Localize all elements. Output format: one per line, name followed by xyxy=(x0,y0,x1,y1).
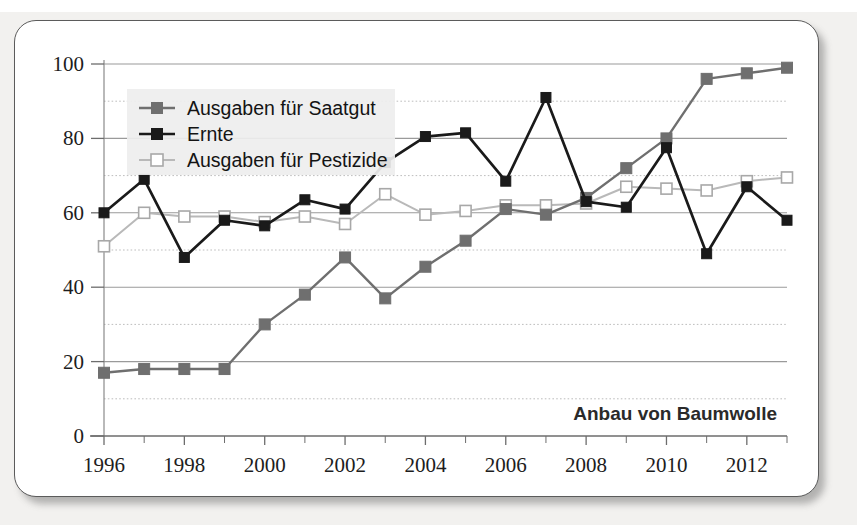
data-point-marker xyxy=(299,289,310,300)
y-axis-tick-label: 100 xyxy=(53,52,85,76)
data-point-marker xyxy=(152,103,163,114)
data-point-marker xyxy=(541,92,551,102)
x-axis-tick-label: 2006 xyxy=(485,453,527,477)
y-axis-tick-label: 0 xyxy=(74,424,85,448)
x-axis-tick-label: 2000 xyxy=(244,453,286,477)
legend-item-label: Ausgaben für Saatgut xyxy=(187,97,376,119)
data-point-marker xyxy=(460,235,471,246)
x-axis-tick-label: 2012 xyxy=(726,453,768,477)
data-point-marker xyxy=(460,205,471,216)
page-root: 0204060801001996199820002002200420062008… xyxy=(0,0,857,525)
data-point-marker xyxy=(621,202,631,212)
figure-card: 0204060801001996199820002002200420062008… xyxy=(14,20,819,497)
data-point-marker xyxy=(742,182,752,192)
data-point-marker xyxy=(179,211,190,222)
data-point-marker xyxy=(99,208,109,218)
x-axis-tick-label: 2010 xyxy=(645,453,687,477)
data-point-marker xyxy=(260,221,270,231)
y-axis-ticks: 020406080100 xyxy=(53,52,105,448)
data-point-marker xyxy=(741,68,752,79)
data-point-marker xyxy=(501,176,511,186)
data-point-marker xyxy=(661,143,671,153)
data-point-marker xyxy=(782,62,793,73)
data-point-marker xyxy=(782,172,793,183)
data-point-marker xyxy=(621,163,632,174)
line-chart: 0204060801001996199820002002200420062008… xyxy=(15,21,820,498)
data-point-marker xyxy=(380,189,391,200)
chart-annotation: Anbau von Baumwolle xyxy=(573,403,777,424)
data-point-marker xyxy=(500,204,511,215)
data-point-marker xyxy=(300,195,310,205)
data-point-marker xyxy=(220,215,230,225)
data-point-marker xyxy=(782,215,792,225)
data-point-marker xyxy=(139,364,150,375)
data-point-marker xyxy=(621,181,632,192)
legend-item-label: Ernte xyxy=(187,123,234,145)
data-point-marker xyxy=(139,207,150,218)
data-point-marker xyxy=(340,204,350,214)
data-point-marker xyxy=(299,211,310,222)
y-axis-tick-label: 40 xyxy=(63,275,84,299)
data-point-marker xyxy=(151,154,163,166)
data-point-marker xyxy=(581,197,591,207)
y-axis-tick-label: 80 xyxy=(63,126,84,150)
data-point-marker xyxy=(702,249,712,259)
data-point-marker xyxy=(380,293,391,304)
data-point-marker xyxy=(420,261,431,272)
x-axis-tick-label: 1998 xyxy=(163,453,205,477)
data-point-marker xyxy=(340,252,351,263)
data-point-marker xyxy=(701,73,712,84)
data-point-marker xyxy=(340,218,351,229)
x-axis-tick-label: 2008 xyxy=(565,453,607,477)
data-point-marker xyxy=(139,174,149,184)
data-point-marker xyxy=(179,364,190,375)
x-axis-tick-label: 2004 xyxy=(404,453,447,477)
data-point-marker xyxy=(99,241,110,252)
y-axis-tick-label: 60 xyxy=(63,201,84,225)
data-point-marker xyxy=(219,364,230,375)
data-point-marker xyxy=(420,209,431,220)
scan-margin-top xyxy=(0,0,857,12)
data-point-marker xyxy=(99,367,110,378)
chart-area: 0204060801001996199820002002200420062008… xyxy=(15,21,820,498)
data-point-marker xyxy=(179,252,189,262)
legend-item-label: Ausgaben für Pestizide xyxy=(187,149,388,171)
y-axis-tick-label: 20 xyxy=(63,350,84,374)
data-point-marker xyxy=(259,319,270,330)
data-point-marker xyxy=(701,185,712,196)
data-point-marker xyxy=(420,132,430,142)
data-point-marker xyxy=(461,128,471,138)
data-point-marker xyxy=(661,183,672,194)
data-point-marker xyxy=(540,209,551,220)
x-axis-tick-label: 2002 xyxy=(324,453,366,477)
chart-legend: Ausgaben für SaatgutErnteAusgaben für Pe… xyxy=(127,89,395,175)
x-axis-ticks: 199619982000200220042006200820102012 xyxy=(83,436,787,477)
x-axis-tick-label: 1996 xyxy=(83,453,125,477)
data-point-marker xyxy=(152,129,163,140)
